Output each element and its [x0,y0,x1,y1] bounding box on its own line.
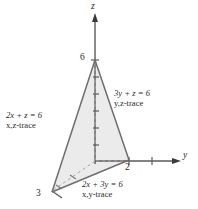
xy-trace-annotation: 2x + 3y = 6 x,y-trace [82,180,123,200]
xz-trace-annotation: 2x + z = 6 x,z-trace [6,111,42,131]
xy-trace-name: x,y-trace [82,190,123,200]
y-intercept-tick-label: 2 [125,162,130,173]
y-axis-arrowhead [172,158,181,164]
plane-trace-figure [0,0,198,209]
yz-trace-name: y,z-trace [114,99,150,109]
yz-trace-annotation: 3y + z = 6 y,z-trace [114,89,150,109]
z-axis-arrowhead [92,13,98,22]
z-axis-label: z [91,1,95,12]
x-intercept-tick-label: 3 [36,188,41,199]
z-intercept-tick-label: 6 [80,52,85,63]
y-axis-label: y [183,150,187,161]
xz-trace-name: x,z-trace [6,121,42,131]
